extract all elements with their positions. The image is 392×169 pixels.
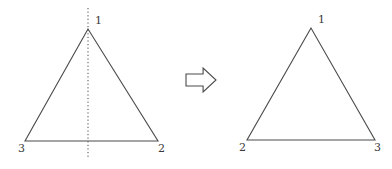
vertex-label-bottom-left-right: 2 bbox=[239, 141, 246, 154]
vertex-label-apex-left: 1 bbox=[95, 14, 102, 27]
reflected-triangle-group: 1 2 3 bbox=[239, 13, 381, 154]
diagram-svg: 1 3 2 1 2 3 bbox=[0, 0, 392, 169]
figure-canvas: 1 3 2 1 2 3 bbox=[0, 0, 392, 169]
vertex-label-apex-right: 1 bbox=[318, 13, 325, 26]
vertex-label-bottom-left-left: 3 bbox=[18, 142, 25, 155]
transformation-arrow-group bbox=[186, 68, 216, 92]
original-triangle-outline bbox=[25, 29, 158, 141]
vertex-label-bottom-right-left: 2 bbox=[158, 142, 165, 155]
vertex-label-bottom-right-right: 3 bbox=[374, 141, 381, 154]
original-triangle-group: 1 3 2 bbox=[18, 8, 165, 158]
transformation-arrow-icon bbox=[186, 68, 216, 92]
reflected-triangle-outline bbox=[247, 28, 375, 140]
